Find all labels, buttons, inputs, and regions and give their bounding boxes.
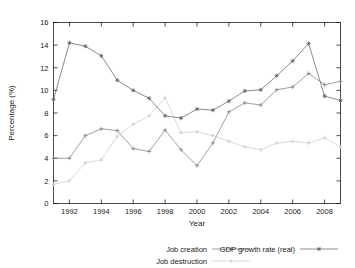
series-line-0 (54, 73, 341, 165)
data-point (163, 114, 167, 118)
data-point (259, 88, 263, 92)
data-point (99, 127, 103, 131)
y-tick-label: 14 (40, 41, 48, 50)
data-point (338, 98, 342, 102)
y-tick-label: 10 (40, 86, 48, 95)
legend-marker (229, 259, 233, 263)
data-point (211, 141, 215, 145)
data-point (243, 101, 247, 105)
data-point (259, 148, 263, 152)
data-point (322, 136, 326, 140)
data-point (322, 94, 326, 98)
data-point (99, 158, 103, 162)
x-tick-label: 2004 (252, 207, 269, 216)
data-point (147, 96, 151, 100)
data-point (227, 139, 231, 143)
data-point (307, 141, 311, 145)
chart-container: 0246810121416199219941996199820002002200… (0, 0, 355, 268)
x-tick-label: 1996 (125, 207, 142, 216)
data-point (51, 156, 55, 160)
y-tick-label: 6 (44, 131, 48, 140)
x-axis-label: Year (189, 219, 206, 228)
data-point (67, 41, 71, 45)
data-point (227, 110, 231, 114)
y-tick-label: 12 (40, 64, 48, 73)
x-tick-label: 2000 (189, 207, 206, 216)
data-point (67, 156, 71, 160)
x-tick-label: 1998 (157, 207, 174, 216)
data-point (291, 59, 295, 63)
y-tick-label: 2 (44, 177, 48, 186)
legend-label: Job destruction (156, 257, 207, 266)
data-point (131, 88, 135, 92)
data-point (83, 134, 87, 138)
data-point (179, 116, 183, 120)
data-point (99, 54, 103, 58)
data-point (211, 108, 215, 112)
data-point (275, 141, 279, 145)
data-point (338, 79, 342, 83)
data-point (83, 44, 87, 48)
legend-label: GDP growth rate (real) (220, 245, 296, 254)
data-point (275, 74, 279, 78)
y-axis-label: Percentage (%) (7, 85, 16, 141)
data-point (179, 131, 183, 135)
legend-marker (317, 247, 321, 251)
y-tick-label: 4 (44, 154, 48, 163)
data-point (307, 41, 311, 45)
y-tick-label: 16 (40, 18, 48, 27)
data-point (51, 97, 55, 101)
x-tick-label: 1992 (61, 207, 78, 216)
data-point (115, 78, 119, 82)
x-tick-label: 2002 (221, 207, 238, 216)
data-point (195, 107, 199, 111)
line-chart: 0246810121416199219941996199820002002200… (0, 0, 355, 268)
plot-frame (54, 23, 341, 204)
y-tick-label: 8 (44, 109, 48, 118)
x-tick-label: 2006 (284, 207, 301, 216)
data-point (51, 182, 55, 186)
data-point (243, 89, 247, 93)
x-tick-label: 2008 (316, 207, 333, 216)
y-tick-label: 0 (44, 199, 48, 208)
data-point (338, 145, 342, 149)
legend-label: Job creation (166, 245, 207, 254)
data-point (227, 99, 231, 103)
series-line-2 (54, 43, 341, 118)
data-point (243, 145, 247, 149)
data-point (195, 130, 199, 134)
data-point (291, 139, 295, 143)
data-point (211, 134, 215, 138)
x-tick-label: 1994 (93, 207, 110, 216)
